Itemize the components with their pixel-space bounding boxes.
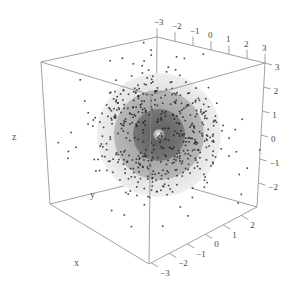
tick-label: 0 [271, 134, 276, 144]
tick-label: −2 [178, 258, 188, 268]
z-axis-title: z [12, 131, 17, 142]
tick-mark [205, 234, 212, 238]
tick-mark [261, 135, 268, 137]
y-axis-title: y [90, 189, 95, 200]
tick-label: 1 [226, 34, 231, 44]
3d-scatter-plot: −3−2−10123 3210−1−2 −3−2−1012 z y x [0, 0, 296, 286]
tick-label: −1 [190, 26, 200, 36]
tick-mark [260, 159, 267, 161]
tick-label: −2 [172, 21, 182, 31]
tick-mark [151, 263, 158, 267]
tick-label: 0 [214, 239, 219, 249]
tick-label: 3 [262, 43, 267, 53]
tick-label: −1 [270, 158, 280, 168]
tick-label: 1 [272, 110, 277, 120]
tick-mark [262, 111, 269, 113]
tick-mark [223, 225, 230, 229]
tick-label: 1 [232, 230, 237, 240]
tick-label: 2 [244, 39, 249, 49]
tick-label: −2 [268, 182, 278, 192]
tick-mark [258, 183, 265, 185]
tick-label: −3 [160, 268, 170, 278]
x-axis-title: x [74, 257, 79, 268]
tick-label: 2 [250, 220, 255, 230]
tick-mark [169, 253, 176, 257]
tick-mark [241, 215, 248, 219]
tick-label: 0 [208, 30, 213, 40]
tick-mark [264, 87, 271, 89]
tick-label: 3 [275, 62, 280, 72]
bottom-axis-ticks: −3−2−1012 [151, 215, 255, 277]
tick-mark [265, 63, 272, 65]
tick-label: −3 [154, 17, 164, 27]
tick-mark [187, 244, 194, 248]
tick-label: −1 [196, 249, 206, 259]
tick-label: 2 [274, 86, 279, 96]
